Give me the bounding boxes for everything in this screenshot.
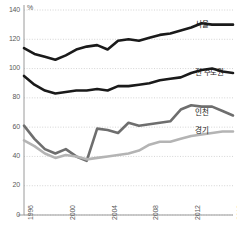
series-label-3: 경기: [195, 124, 209, 135]
y-tick-label: 140: [0, 6, 20, 13]
x-tick-label: 2012: [194, 205, 201, 220]
x-tick-label: 1996: [27, 205, 34, 220]
series-line-3: [24, 132, 233, 160]
series-label-0: 서울: [195, 18, 209, 29]
x-tick-label: 2000: [69, 205, 76, 220]
series-label-1: 전 수도권: [195, 66, 224, 77]
y-tick-label: 0: [0, 211, 20, 218]
y-tick-label: 80: [0, 93, 20, 100]
y-tick-label: 100: [0, 64, 20, 71]
x-tick-label: 2004: [111, 205, 118, 220]
series-label-2: 인천: [195, 106, 209, 117]
y-tick-label: 20: [0, 181, 20, 188]
series-line-0: [24, 23, 233, 60]
y-axis-unit-label: %: [27, 4, 33, 11]
x-tick-label: 2008: [152, 205, 159, 220]
y-tick-label: 120: [0, 35, 20, 42]
y-tick-label: 60: [0, 123, 20, 130]
line-chart: % 020406080100120140 1996200020042008201…: [0, 0, 237, 246]
y-tick-label: 40: [0, 152, 20, 159]
x-tick-label: 2016: [236, 205, 237, 220]
